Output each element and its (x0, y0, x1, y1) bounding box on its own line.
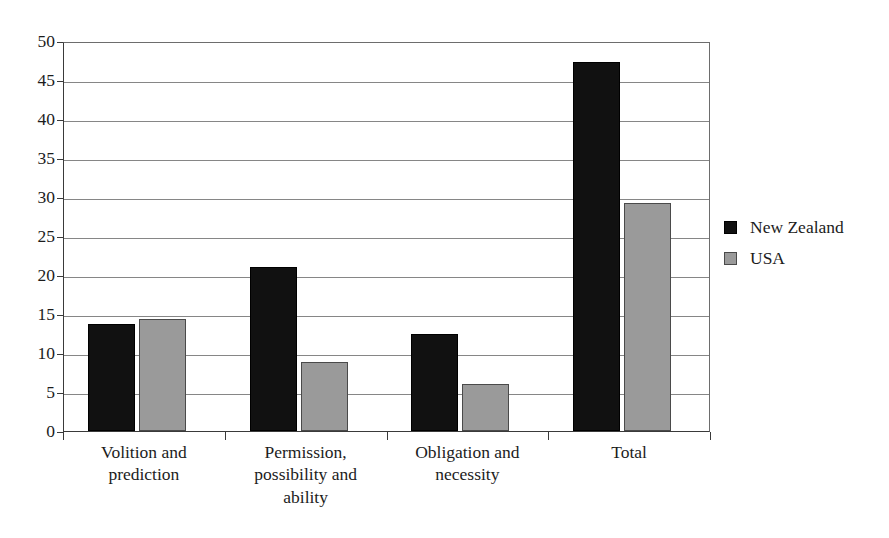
bar-new-zealand-0 (88, 324, 135, 431)
x-axis-label-line: necessity (387, 463, 549, 485)
bar-usa-2 (462, 384, 509, 431)
x-axis-label-line: possibility and (225, 463, 387, 485)
x-axis-label-line: prediction (63, 463, 225, 485)
y-axis-tick-label: 15 (9, 306, 55, 324)
x-axis-label-line: Volition and (63, 441, 225, 463)
x-axis-label-line: Total (548, 441, 710, 463)
x-axis-tick (387, 432, 388, 440)
bar-usa-3 (624, 203, 671, 431)
x-axis-label-2: Obligation andnecessity (387, 441, 549, 486)
x-axis-tick (225, 432, 226, 440)
legend: New ZealandUSA (724, 212, 844, 274)
gray-square-swatch (724, 252, 737, 265)
legend-item-usa[interactable]: USA (724, 243, 844, 274)
plot-area (63, 42, 710, 432)
y-axis-tick-label: 0 (9, 423, 55, 441)
x-axis-label-3: Total (548, 441, 710, 463)
x-axis-label-line: Permission, (225, 441, 387, 463)
legend-label: New Zealand (750, 219, 844, 237)
legend-label: USA (750, 250, 785, 268)
y-axis-tick-label: 35 (9, 150, 55, 168)
x-axis-tick (548, 432, 549, 440)
bar-usa-1 (301, 362, 348, 431)
x-axis-label-line: ability (225, 486, 387, 508)
y-axis-tick-label: 30 (9, 189, 55, 207)
bar-new-zealand-1 (250, 267, 297, 431)
x-axis-label-1: Permission,possibility andability (225, 441, 387, 508)
y-axis-tick-label: 5 (9, 384, 55, 402)
y-axis-tick-label: 20 (9, 267, 55, 285)
x-axis-tick (710, 432, 711, 440)
x-axis-label-0: Volition andprediction (63, 441, 225, 486)
y-axis-tick-label: 50 (9, 33, 55, 51)
bar-chart: 50454035302520151050 Volition andpredict… (0, 0, 889, 538)
bar-new-zealand-2 (411, 334, 458, 432)
y-axis-tick-label: 25 (9, 228, 55, 246)
x-axis-label-line: Obligation and (387, 441, 549, 463)
black-square-swatch (724, 221, 737, 234)
y-axis-tick-label: 10 (9, 345, 55, 363)
bar-usa-0 (139, 319, 186, 431)
x-axis-tick (63, 432, 64, 440)
y-axis-tick-label: 45 (9, 72, 55, 90)
y-axis: 50454035302520151050 (0, 0, 55, 538)
y-axis-tick-label: 40 (9, 111, 55, 129)
legend-item-new-zealand[interactable]: New Zealand (724, 212, 844, 243)
bar-new-zealand-3 (573, 62, 620, 431)
